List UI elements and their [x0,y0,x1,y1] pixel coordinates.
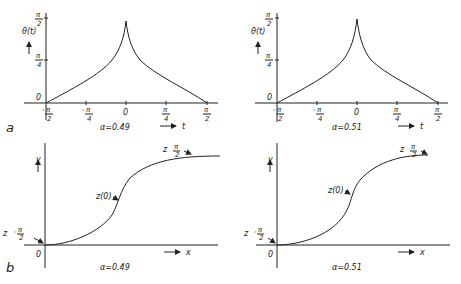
z-curve [45,156,220,245]
svg-text:-: - [14,228,17,236]
panel-label-b: b [6,260,14,275]
alpha-label: α=0.49 [100,123,130,132]
theta-curve [46,21,207,103]
label-z-pi-2: z [162,145,168,154]
x-axis-label: x [185,248,191,257]
svg-text:0: 0 [267,93,272,102]
svg-text:π: π [174,143,179,151]
svg-text:0: 0 [36,250,41,259]
svg-text:π: π [258,226,263,234]
svg-text:z: z [399,145,405,154]
svg-text:z: z [243,229,249,238]
label-z-minus-pi-2: z [2,229,8,238]
svg-text:π: π [204,106,209,114]
x-axis-label: t [420,122,424,131]
alpha-label: α=0.51 [332,123,362,132]
svg-text:2: 2 [278,115,283,123]
ytick-pi4-num: π [36,52,41,60]
panel-label-a: a [6,120,14,135]
z-curve [277,155,428,245]
svg-text:-: - [273,106,276,114]
svg-text:2: 2 [205,115,210,123]
svg-text:2: 2 [436,115,441,123]
svg-text:0: 0 [123,108,128,117]
svg-text:2: 2 [412,151,417,159]
svg-text:-: - [254,228,257,236]
alpha-label: α=0.51 [332,263,362,272]
plot-a-right: π 2 π 4 0 θ(t) - π 2 - π 4 0 π 4 π 2 α=0… [251,11,448,132]
plot-b-right: y 0 z - π 2 z(0) z π 2 x α=0.51 [243,143,450,272]
svg-text:-: - [313,106,316,114]
y-axis-label: θ(t) [22,27,36,36]
svg-text:π: π [266,52,271,60]
label-z0: z(0) [327,186,344,195]
y-axis-label: θ(t) [251,27,265,36]
svg-text:π: π [277,106,282,114]
svg-text:4: 4 [395,115,399,123]
svg-text:0: 0 [268,250,273,259]
svg-text:π: π [411,143,416,151]
svg-text:4: 4 [318,115,322,123]
svg-text:2: 2 [37,20,42,28]
svg-text:2: 2 [19,234,24,242]
alpha-label: α=0.49 [100,263,130,272]
svg-text:π: π [435,106,440,114]
svg-text:4: 4 [37,61,41,69]
ytick-0: 0 [36,93,41,102]
svg-text:π: π [317,106,322,114]
ytick-pi2-num: π [36,11,41,19]
svg-text:π: π [18,226,23,234]
svg-text:π: π [394,106,399,114]
plot-b-left: y 0 z - π 2 z(0) z π 2 x α=0.49 b [2,143,220,275]
theta-curve [277,19,438,103]
svg-text:π: π [86,106,91,114]
svg-text:-: - [42,106,45,114]
svg-text:4: 4 [267,61,271,69]
svg-text:2: 2 [259,234,264,242]
x-axis-label: t [182,122,186,131]
figure: π 2 π 4 0 θ(t) - π 2 - π 4 0 π 4 π 2 α=0… [0,0,461,284]
x-axis-label: x [419,248,425,257]
svg-text:π: π [266,11,271,19]
svg-text:4: 4 [87,115,91,123]
svg-text:π: π [46,106,51,114]
plot-a-left: π 2 π 4 0 θ(t) - π 2 - π 4 0 π 4 π 2 α=0… [6,11,218,135]
svg-text:0: 0 [354,108,359,117]
svg-text:π: π [163,106,168,114]
svg-text:-: - [82,106,85,114]
svg-text:2: 2 [267,20,272,28]
svg-text:2: 2 [175,151,180,159]
label-z0: z(0) [95,192,112,201]
svg-text:4: 4 [164,115,168,123]
svg-text:2: 2 [47,115,52,123]
